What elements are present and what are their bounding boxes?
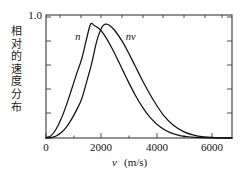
plot-area: 1.0 0 2000 4000 6000 v (m/s) n nv	[0, 0, 242, 176]
chart-figure: 相对的速度分布	[0, 0, 242, 176]
x-tick-label-2000: 2000	[90, 141, 113, 153]
curve-label-n: n	[75, 31, 80, 42]
curve-label-nv: nv	[126, 31, 136, 42]
frame-box	[46, 15, 232, 138]
y-tick-label-1.0: 1.0	[28, 9, 42, 21]
x-axis-title-units: (m/s)	[124, 156, 148, 169]
plot-frame	[46, 15, 232, 138]
x-axis-title-symbol: v	[112, 156, 117, 168]
right-axis-ticks	[227, 17, 232, 113]
x-tick-label-4000: 4000	[146, 141, 169, 153]
x-axis-title: v (m/s)	[112, 156, 147, 169]
x-tick-label-6000: 6000	[201, 141, 224, 153]
x-tick-label-0: 0	[43, 141, 49, 153]
curve-n	[46, 23, 232, 138]
y-axis-ticks	[46, 17, 51, 137]
